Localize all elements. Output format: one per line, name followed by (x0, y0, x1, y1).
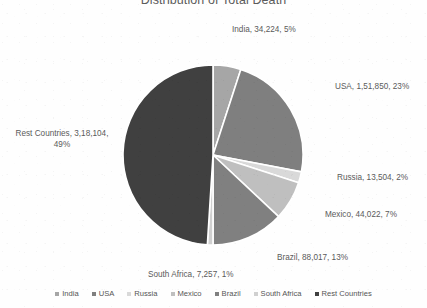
legend-swatch-icon (92, 292, 96, 296)
data-label-usa: USA, 1,51,850, 23% (335, 81, 409, 92)
legend-item-label: India (62, 289, 78, 298)
legend-item-label: Russia (134, 289, 157, 298)
legend-item-label: Mexico (178, 289, 202, 298)
data-label-south-africa: South Africa, 7,257, 1% (148, 269, 234, 280)
data-label-mexico: Mexico, 44,022, 7% (325, 209, 397, 220)
pie-slice-group (123, 65, 303, 245)
legend-item-label: Rest Countries (322, 289, 372, 298)
legend-swatch-icon (171, 292, 175, 296)
pie-slice[interactable] (123, 65, 213, 245)
legend-swatch-icon (315, 292, 319, 296)
legend-item-label: Brazil (222, 289, 241, 298)
chart-legend: IndiaUSARussiaMexicoBrazilSouth AfricaRe… (0, 289, 427, 298)
legend-item[interactable]: Russia (127, 289, 157, 298)
legend-item[interactable]: Rest Countries (315, 289, 372, 298)
legend-item-label: USA (99, 289, 115, 298)
legend-swatch-icon (215, 292, 219, 296)
data-label-russia: Russia, 13,504, 2% (337, 172, 408, 183)
legend-swatch-icon (254, 292, 258, 296)
legend-item-label: South Africa (261, 289, 302, 298)
legend-swatch-icon (55, 292, 59, 296)
chart-canvas: Distribution of Total Death India, 34,22… (0, 0, 427, 308)
legend-item[interactable]: USA (92, 289, 115, 298)
legend-item[interactable]: South Africa (254, 289, 302, 298)
page-title: Distribution of Total Death (0, 0, 427, 7)
data-label-brazil: Brazil, 88,017, 13% (277, 252, 348, 263)
pie-chart-svg (122, 64, 304, 246)
pie-chart (122, 64, 304, 246)
data-label-rest-countries: Rest Countries, 3,18,104, 49% (8, 128, 116, 150)
legend-item[interactable]: India (55, 289, 78, 298)
data-label-india: India, 34,224, 5% (232, 24, 296, 35)
legend-item[interactable]: Brazil (215, 289, 241, 298)
legend-swatch-icon (127, 292, 131, 296)
legend-item[interactable]: Mexico (171, 289, 202, 298)
